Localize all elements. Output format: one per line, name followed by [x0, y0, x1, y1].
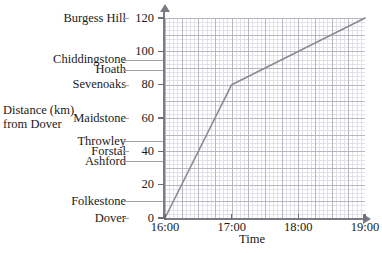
- y-axis-line: [163, 10, 165, 219]
- y-axis-arrow-icon: [160, 4, 170, 12]
- leader-line-throwley: [123, 141, 163, 142]
- station-label-sevenoaks: Sevenoaks: [73, 78, 126, 91]
- y-tick-60: [158, 117, 164, 118]
- y-tick-0: [158, 217, 164, 218]
- station-label-folkestone: Folkestone: [71, 195, 126, 208]
- x-axis-title: Time: [0, 233, 382, 246]
- y-tick-label-80: 80: [126, 78, 154, 91]
- y-tick-label-100: 100: [126, 45, 154, 58]
- station-label-burgess-hill: Burgess Hill: [63, 12, 126, 25]
- y-tick-80: [158, 84, 164, 85]
- leader-line-folkestone: [123, 201, 163, 202]
- leader-line-ashford: [123, 161, 163, 162]
- distance-time-graph: 020406080100120 16:0017:0018:0019:00 Bur…: [0, 0, 382, 253]
- series-line-layer: [155, 6, 375, 231]
- y-tick-label-20: 20: [126, 178, 154, 191]
- series-line-train-journey: [165, 18, 365, 218]
- y-tick-label-40: 40: [126, 145, 154, 158]
- y-tick-label-60: 60: [126, 112, 154, 125]
- leader-line-hoath: [123, 70, 163, 71]
- station-label-hoath: Hoath: [95, 63, 126, 76]
- station-label-maidstone: Maidstone: [73, 112, 126, 125]
- leader-line-sevenoaks: [123, 85, 129, 86]
- x-tick-label-1900: 19:00: [335, 221, 382, 234]
- leader-line-burgess-hill: [123, 18, 129, 19]
- y-tick-120: [158, 17, 164, 18]
- y-axis-title-line1: Distance (km): [3, 103, 74, 117]
- y-axis-title: Distance (km) from Dover: [3, 103, 74, 131]
- x-axis-line: [164, 218, 365, 220]
- leader-line-maidstone: [123, 118, 129, 119]
- plot-area: [165, 18, 365, 218]
- y-axis-title-line2: from Dover: [3, 117, 74, 131]
- y-tick-100: [158, 51, 164, 52]
- x-tick-label-1800: 18:00: [268, 221, 328, 234]
- leader-line-chiddingstone: [123, 60, 163, 61]
- station-label-dover: Dover: [95, 212, 126, 225]
- station-label-ashford: Ashford: [85, 155, 126, 168]
- x-tick-label-1600: 16:00: [135, 221, 195, 234]
- leader-line-forstal: [123, 151, 129, 152]
- x-axis-title-text: Time: [239, 232, 265, 246]
- y-tick-label-120: 120: [126, 12, 154, 25]
- y-tick-40: [158, 151, 164, 152]
- y-tick-20: [158, 184, 164, 185]
- leader-line-dover: [123, 218, 129, 219]
